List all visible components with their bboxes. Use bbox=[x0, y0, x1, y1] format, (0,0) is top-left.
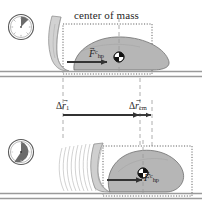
center-of-mass-marker-top bbox=[114, 52, 124, 62]
displacement-1-subscript: 1 bbox=[66, 104, 69, 111]
force-symbol-bottom: F bbox=[144, 172, 150, 183]
displacement-1-label: Δr1 bbox=[56, 101, 69, 112]
force-subscript-top: hp bbox=[98, 52, 104, 59]
displacement-cm-symbol: r bbox=[135, 100, 139, 111]
displacement-1-symbol: r bbox=[62, 100, 66, 111]
clock-later-icon bbox=[9, 140, 34, 165]
force-symbol-top: F bbox=[89, 48, 95, 59]
force-label-bottom: Fchp bbox=[144, 173, 159, 184]
force-label-top: Fchp bbox=[89, 49, 104, 60]
clock-early-icon bbox=[9, 15, 34, 40]
center-of-mass-title: center of mass bbox=[74, 10, 139, 21]
displacement-cm-subscript: cm bbox=[139, 104, 147, 111]
pusher-element-bottom bbox=[91, 143, 110, 192]
force-subscript-bottom: hp bbox=[153, 176, 159, 183]
displacement-cm-label: Δrcm bbox=[129, 101, 147, 112]
diagram-canvas bbox=[0, 0, 202, 207]
physics-diagram-center-of-mass: center of mass Fchp Fchp Δr1 Δrcm bbox=[0, 0, 202, 207]
